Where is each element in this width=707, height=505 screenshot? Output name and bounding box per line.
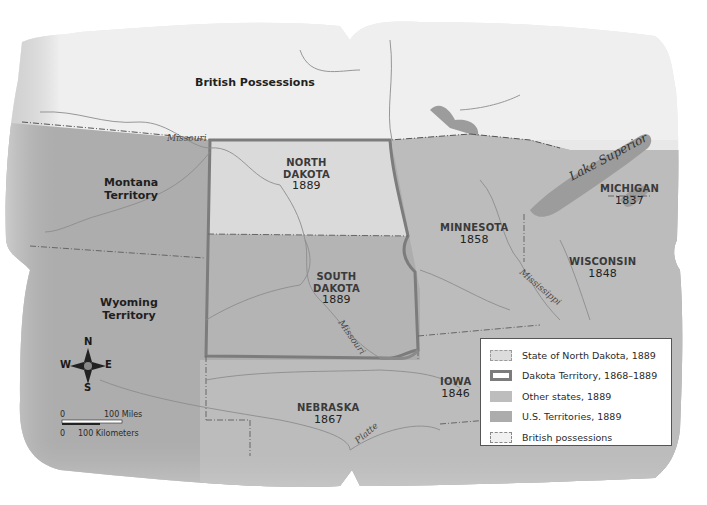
north-dakota-name: NORTH [283, 157, 330, 169]
south-dakota-year: 1889 [313, 294, 360, 307]
nebraska-name: NEBRASKA [297, 402, 360, 414]
label-iowa: IOWA 1846 [440, 376, 471, 400]
legend-item-other-states: Other states, 1889 [490, 386, 671, 407]
compass-n: N [84, 336, 92, 347]
montana-name: Montana [104, 177, 158, 190]
legend-item-dakota-territory: Dakota Territory, 1868–1889 [490, 366, 671, 387]
legend-label: Other states, 1889 [522, 391, 611, 402]
wisconsin-year: 1848 [569, 268, 636, 281]
label-wisconsin: WISCONSIN 1848 [569, 256, 636, 280]
label-montana-territory: Montana Territory [104, 177, 158, 202]
label-british-possessions: British Possessions [195, 77, 315, 90]
minnesota-year: 1858 [440, 234, 509, 247]
label-north-dakota: NORTH DAKOTA 1889 [283, 157, 330, 193]
label-wyoming-territory: Wyoming Territory [100, 297, 158, 322]
nebraska-year: 1867 [297, 414, 360, 427]
legend-label: State of North Dakota, 1889 [522, 350, 656, 361]
scale-miles-zero: 0 [60, 410, 65, 419]
south-dakota-name: SOUTH [313, 271, 360, 283]
wisconsin-name: WISCONSIN [569, 256, 636, 268]
compass-s: S [84, 382, 91, 393]
wyoming-name: Wyoming [100, 297, 158, 310]
legend-label: British possessions [522, 432, 612, 443]
swatch-british-possessions [490, 432, 512, 443]
wyoming-name2: Territory [100, 310, 158, 323]
label-south-dakota: SOUTH DAKOTA 1889 [313, 271, 360, 307]
swatch-us-territories [490, 411, 512, 422]
iowa-year: 1846 [440, 388, 471, 401]
scale-miles-label: 100 Miles [104, 410, 142, 419]
legend-item-british-possessions: British possessions [490, 427, 671, 448]
legend-label: U.S. Territories, 1889 [522, 411, 621, 422]
label-missouri-upper: Missouri [167, 133, 207, 143]
label-michigan: MICHIGAN 1837 [600, 183, 659, 207]
scale-km-label: 100 Kilometers [78, 429, 139, 438]
michigan-name: MICHIGAN [600, 183, 659, 195]
swatch-north-dakota [490, 350, 512, 361]
compass-w: W [60, 359, 71, 370]
swatch-dakota-territory [490, 370, 512, 381]
michigan-year: 1837 [600, 195, 659, 208]
legend-item-us-territories: U.S. Territories, 1889 [490, 407, 671, 428]
compass-e: E [105, 359, 112, 370]
south-dakota-shape [206, 234, 418, 358]
legend-item-north-dakota: State of North Dakota, 1889 [490, 345, 671, 366]
label-nebraska: NEBRASKA 1867 [297, 402, 360, 426]
map-legend: State of North Dakota, 1889 Dakota Terri… [480, 338, 672, 446]
label-minnesota: MINNESOTA 1858 [440, 222, 509, 246]
scale: 0 100 Miles 0 100 Kilometers [60, 410, 180, 440]
scale-km-zero: 0 [60, 429, 65, 438]
iowa-name: IOWA [440, 376, 471, 388]
legend-label: Dakota Territory, 1868–1889 [522, 370, 657, 381]
north-dakota-year: 1889 [283, 180, 330, 193]
montana-name2: Territory [104, 190, 158, 203]
minnesota-name: MINNESOTA [440, 222, 509, 234]
compass-rose: N W E S [60, 336, 116, 396]
swatch-other-states [490, 391, 512, 402]
